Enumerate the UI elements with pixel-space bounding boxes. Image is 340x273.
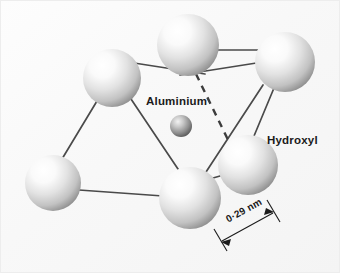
aluminium-label: Aluminium (146, 95, 207, 107)
figure-panel: Aluminium Hydroxyl 0·29 nm (0, 0, 340, 273)
hydroxyl-sphere-top-right (255, 32, 315, 92)
hydroxyl-sphere-upper-left (83, 49, 141, 107)
hydroxyl-sphere-bottom-left (25, 155, 81, 211)
aluminium-sphere-center (170, 115, 192, 137)
hydroxyl-label: Hydroxyl (267, 134, 318, 146)
hydroxyl-sphere-bottom (159, 167, 221, 229)
hydroxyl-sphere-top (157, 14, 219, 76)
